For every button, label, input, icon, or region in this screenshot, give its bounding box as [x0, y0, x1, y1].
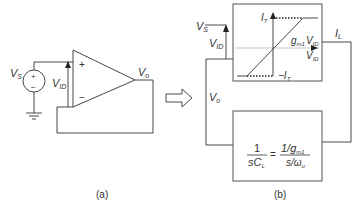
diagram-canvas: + − VS VID + − Vo (a) VS VID	[0, 0, 364, 214]
load-capacitor-block	[233, 111, 322, 181]
load-current-wire	[322, 42, 351, 142]
source-minus-sign: −	[31, 83, 36, 92]
panel-a-circuit: + − VS VID + − Vo (a)	[10, 50, 153, 200]
vs-label-b: VS	[196, 20, 208, 33]
source-plus-sign: +	[31, 72, 36, 81]
il-label: IL	[335, 27, 342, 40]
vo-label-b: Vo	[209, 91, 220, 104]
opamp-plus-sign: +	[79, 59, 85, 70]
lhs-numerator: 1	[254, 142, 260, 154]
right-arrow-icon	[166, 89, 192, 107]
vid-label: VID	[52, 77, 66, 90]
vs-label: VS	[10, 67, 22, 80]
feedback-wire	[57, 80, 153, 133]
vid-label-b: VID	[209, 37, 223, 50]
equals-sign: =	[270, 149, 276, 160]
panel-b-model: VS VID Vo IT gm1VID VID −IT IL 1 sCL = 1…	[196, 4, 351, 200]
caption-a: (a)	[96, 189, 108, 200]
opamp-minus-sign: −	[79, 92, 85, 103]
vo-label: Vo	[138, 66, 149, 79]
caption-b: (b)	[274, 189, 286, 200]
ground-icon	[26, 113, 42, 119]
